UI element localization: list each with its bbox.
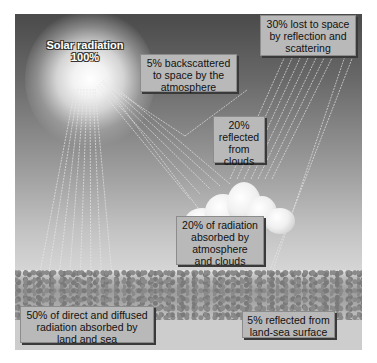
label-line: absorbed by [180, 231, 260, 243]
label-line: atmosphere [144, 81, 233, 93]
label-reflected-from-clouds: 20% reflected from clouds [213, 116, 265, 163]
label-line: 5% reflected from [246, 314, 331, 326]
label-absorbed-by-land-sea: 50% of direct and diffused radiation abs… [20, 306, 154, 343]
diagram-frame: Solar radiation 100% 5% backscattered to… [15, 14, 362, 350]
label-line: from [217, 143, 261, 155]
label-line: land and sea [24, 333, 150, 345]
label-absorbed-by-atmosphere: 20% of radiation absorbed by atmosphere … [176, 216, 264, 265]
label-line: by reflection and [264, 30, 352, 42]
sun-label-text: Solar radiation [35, 39, 135, 51]
sun-label-value: 100% [35, 51, 135, 63]
label-line: atmosphere [180, 243, 260, 255]
label-line: 5% backscattered [144, 57, 233, 69]
label-line: 50% of direct and diffused [24, 309, 150, 321]
label-line: to space by the [144, 69, 233, 81]
label-backscattered: 5% backscattered to space by the atmosph… [140, 54, 237, 92]
label-line: reflected [217, 131, 261, 143]
label-line: and clouds [180, 255, 260, 267]
sun-label: Solar radiation 100% [35, 39, 135, 63]
label-line: land-sea surface [246, 326, 331, 338]
label-line: 20% of radiation [180, 219, 260, 231]
label-line: clouds [217, 155, 261, 167]
label-line: 20% [217, 119, 261, 131]
label-line: radiation absorbed by [24, 321, 150, 333]
label-lost-to-space: 30% lost to space by reflection and scat… [260, 15, 356, 56]
label-reflected-from-surface: 5% reflected from land-sea surface [242, 311, 335, 338]
label-line: 30% lost to space [264, 18, 352, 30]
label-line: scattering [264, 42, 352, 54]
